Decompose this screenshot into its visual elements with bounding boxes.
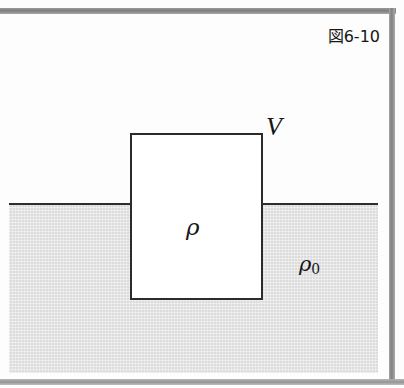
body-density-label: ρ xyxy=(186,216,200,239)
page-frame-right-bar xyxy=(389,8,395,380)
page-frame-top-bar xyxy=(0,8,396,14)
fluid-density-label: ρ0 xyxy=(299,254,320,275)
volume-label: V xyxy=(266,114,282,140)
figure-caption-label: 図6-10 xyxy=(328,29,380,45)
page-frame-bottom-bar xyxy=(0,379,404,385)
fluid-density-subscript: 0 xyxy=(311,261,320,277)
fluid-density-symbol: ρ xyxy=(299,252,311,276)
figure-canvas: 図6-10 V ρ ρ0 xyxy=(0,0,404,388)
